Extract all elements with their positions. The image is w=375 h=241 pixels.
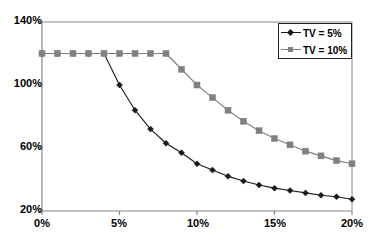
series-group (39, 51, 355, 203)
x-tick-label-10: 10% (180, 217, 216, 229)
y-tick-label-140: 140% (2, 14, 42, 26)
x-tick-label-5: 5% (105, 217, 133, 229)
legend-swatch-square-icon (279, 43, 303, 57)
legend-swatch-diamond-icon (279, 26, 303, 40)
x-tick-label-20: 20% (334, 217, 370, 229)
y-tick-label-20: 20% (2, 203, 42, 215)
chart-container: 140% 100% 60% 20% 0% 5% 10% 15% 20% TV =… (0, 0, 375, 241)
legend-label-tv-5: TV = 5% (303, 28, 342, 39)
legend-item-tv-10: TV = 10% (279, 42, 353, 58)
legend: TV = 5% TV = 10% (278, 23, 352, 59)
legend-label-tv-10: TV = 10% (303, 45, 347, 56)
x-tick-label-0: 0% (28, 217, 56, 229)
y-tick-label-100: 100% (2, 77, 42, 89)
legend-item-tv-5: TV = 5% (279, 25, 353, 41)
y-tick-label-60: 60% (2, 140, 42, 152)
x-tick-label-15: 15% (257, 217, 293, 229)
